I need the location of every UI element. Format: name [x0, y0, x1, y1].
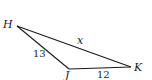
side-label-hj: 13 — [33, 48, 46, 59]
vertex-label-k: K — [133, 61, 143, 74]
vertex-label-h: H — [2, 18, 13, 31]
triangle-diagram: H J K x 13 12 — [0, 0, 152, 80]
side-hk — [17, 26, 131, 67]
side-label-hk: x — [77, 34, 84, 47]
side-label-jk: 12 — [97, 69, 110, 80]
vertex-label-j: J — [63, 69, 70, 80]
